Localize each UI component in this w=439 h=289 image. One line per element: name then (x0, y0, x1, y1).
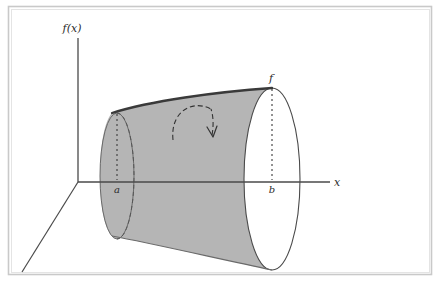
y-axis-label: f(x) (62, 22, 82, 35)
x-axis-label: x (334, 176, 341, 189)
curve-label-f: f (268, 72, 275, 85)
solid-of-revolution-diagram: f(x) x f a b (0, 0, 439, 289)
bound-label-b: b (269, 184, 275, 195)
bound-label-a: a (114, 184, 120, 195)
z-axis (22, 182, 78, 272)
figure-container: f(x) x f a b (0, 0, 439, 289)
